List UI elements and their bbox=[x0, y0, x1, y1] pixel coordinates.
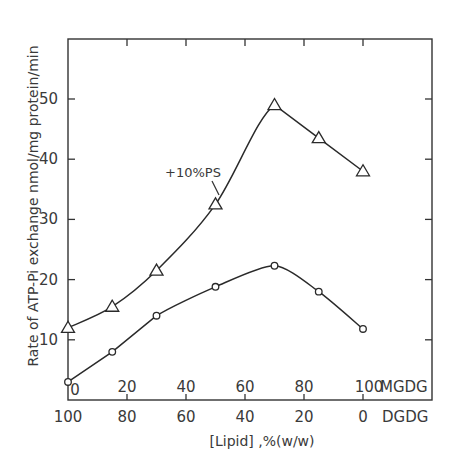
x-axis-title: [Lipid] ,%(w/w) bbox=[209, 433, 314, 449]
mgdg-axis-label: MGDG bbox=[380, 378, 428, 396]
y-tick-label: 20 bbox=[39, 271, 58, 289]
triangle-marker bbox=[209, 198, 222, 209]
annotation-leader-line bbox=[212, 181, 219, 195]
x-tick-label-mgdg: 0 bbox=[70, 381, 80, 399]
x-tick-label-mgdg: 40 bbox=[176, 378, 195, 396]
x-tick-label-mgdg: 80 bbox=[294, 378, 313, 396]
circle-marker bbox=[153, 312, 160, 319]
circle-marker bbox=[360, 326, 367, 333]
circle-marker bbox=[109, 349, 116, 356]
y-tick-label: 40 bbox=[39, 150, 58, 168]
chart: 1020304050010020804060604080201000 Rate … bbox=[0, 0, 455, 466]
triangle-marker bbox=[268, 99, 281, 110]
x-tick-label-dgdg: 80 bbox=[117, 408, 136, 426]
plot-frame bbox=[68, 39, 432, 400]
circle-marker bbox=[212, 284, 219, 291]
data-series bbox=[62, 99, 370, 386]
triangle-marker bbox=[62, 321, 75, 332]
x-tick-label-dgdg: 40 bbox=[235, 408, 254, 426]
x-tick-label-dgdg: 20 bbox=[294, 408, 313, 426]
y-tick-label: 50 bbox=[39, 90, 58, 108]
triangle-marker bbox=[106, 300, 119, 311]
triangle-marker bbox=[357, 165, 370, 176]
dgdg-axis-label: DGDG bbox=[382, 408, 428, 426]
circle-marker bbox=[271, 262, 278, 269]
circle-marker bbox=[65, 379, 72, 386]
x-tick-label-dgdg: 0 bbox=[358, 408, 368, 426]
x-tick-label-dgdg: 60 bbox=[176, 408, 195, 426]
axis-tick-labels: 1020304050010020804060604080201000 bbox=[39, 90, 383, 426]
x-tick-label-mgdg: 20 bbox=[117, 378, 136, 396]
triangle-marker bbox=[312, 132, 325, 143]
circle-marker bbox=[315, 288, 322, 295]
y-axis-title: Rate of ATP-Pi exchange nmol/mg protein/… bbox=[25, 45, 41, 366]
ps-annotation: +10%PS bbox=[165, 165, 221, 180]
y-tick-label: 10 bbox=[39, 331, 58, 349]
y-tick-label: 30 bbox=[39, 210, 58, 228]
x-tick-label-mgdg: 60 bbox=[235, 378, 254, 396]
x-tick-label-dgdg: 100 bbox=[54, 408, 83, 426]
axis-ticks bbox=[68, 39, 432, 400]
